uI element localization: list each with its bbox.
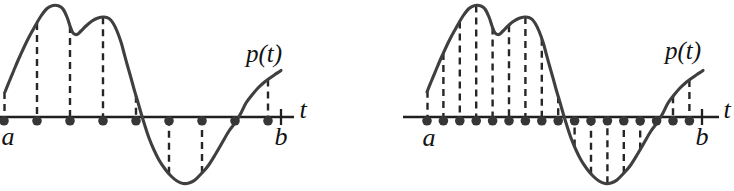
sample-dot xyxy=(471,116,481,126)
sample-dot xyxy=(504,116,514,126)
sample-dot xyxy=(455,116,465,126)
sample-dot xyxy=(553,116,563,126)
label-time-axis: t xyxy=(723,95,731,124)
sample-dot xyxy=(668,116,678,126)
rate-curve xyxy=(427,5,703,183)
sample-dot xyxy=(586,116,596,126)
sample-dot xyxy=(439,116,449,126)
label-interval-end: b xyxy=(696,122,709,151)
panel-coarse-sampling: a b t p(t) xyxy=(0,5,307,183)
sample-dot xyxy=(603,116,613,126)
sample-dot xyxy=(521,116,531,126)
figure-canvas: a b t p(t) a b t p(t) xyxy=(0,0,734,191)
sample-dot xyxy=(635,116,645,126)
sample-dot xyxy=(685,116,695,126)
figure: a b t p(t) a b t p(t) xyxy=(0,0,734,191)
sample-dot xyxy=(652,116,662,126)
label-time-axis: t xyxy=(299,95,307,124)
label-curve: p(t) xyxy=(663,37,701,65)
sample-dot xyxy=(32,116,42,126)
sample-dot xyxy=(619,116,629,126)
rate-curve xyxy=(5,5,281,183)
label-curve: p(t) xyxy=(244,40,282,68)
sample-dot xyxy=(570,116,580,126)
sample-dot xyxy=(230,116,240,126)
panel-fine-sampling: a b t p(t) xyxy=(403,5,731,183)
sample-dot xyxy=(197,116,207,126)
sample-dot xyxy=(164,116,174,126)
sample-dot xyxy=(131,116,141,126)
label-interval-start: a xyxy=(423,123,436,152)
label-interval-start: a xyxy=(2,122,15,151)
sample-dot xyxy=(537,116,547,126)
sample-dot xyxy=(65,116,75,126)
sample-dot xyxy=(488,116,498,126)
sample-dot-group xyxy=(422,116,694,126)
label-interval-end: b xyxy=(275,122,288,151)
sample-dot xyxy=(98,116,108,126)
sample-dot xyxy=(263,116,273,126)
